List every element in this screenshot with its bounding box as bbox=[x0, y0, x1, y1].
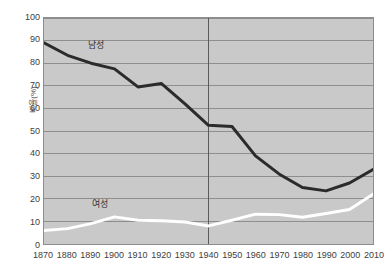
y-tick-label: 70 bbox=[14, 81, 40, 90]
x-axis-tick-labels: 1870188018901900191019201930194019501960… bbox=[43, 250, 374, 266]
y-tick-label: 50 bbox=[14, 127, 40, 136]
y-tick-label: 80 bbox=[14, 58, 40, 67]
plot-svg bbox=[44, 18, 373, 244]
y-tick-label: 0 bbox=[14, 241, 40, 250]
y-tick-label: 20 bbox=[14, 195, 40, 204]
y-tick-label: 60 bbox=[14, 104, 40, 113]
y-tick-label: 30 bbox=[14, 172, 40, 181]
y-axis-tick-labels: 0102030405060708090100 bbox=[10, 0, 40, 271]
series-label-male: 남성 bbox=[88, 40, 104, 50]
y-tick-label: 90 bbox=[14, 35, 40, 44]
y-tick-label: 40 bbox=[14, 149, 40, 158]
y-tick-label: 100 bbox=[14, 13, 40, 22]
chart-container: 비율(%) 0102030405060708090100 18701880189… bbox=[0, 0, 391, 271]
x-tick-label: 2010 bbox=[357, 250, 391, 260]
y-tick-label: 10 bbox=[14, 218, 40, 227]
plot-area bbox=[43, 17, 374, 245]
series-label-female: 여성 bbox=[92, 199, 108, 209]
